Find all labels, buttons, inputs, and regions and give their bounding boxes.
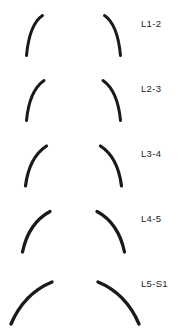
level-label-l5-s1: L5-S1	[141, 279, 168, 289]
arc-group-row-3	[23, 212, 125, 253]
right-arc	[101, 146, 122, 186]
left-arc	[11, 282, 52, 324]
left-arc	[26, 146, 47, 186]
arc-group-row-2	[26, 146, 122, 186]
lumbar-levels-figure: L1-2 L2-3 L3-4 L4-5 L5-S1	[0, 0, 187, 331]
level-label-l4-5: L4-5	[141, 214, 161, 224]
level-label-l2-3: L2-3	[141, 84, 161, 94]
right-arc	[105, 16, 121, 56]
left-arc	[27, 81, 45, 121]
left-arc	[23, 212, 51, 253]
right-arc	[97, 212, 125, 253]
level-label-l1-2: L1-2	[141, 19, 161, 29]
right-arc	[103, 81, 121, 121]
arc-group-row-0	[27, 16, 121, 56]
arc-group-row-1	[27, 81, 121, 121]
level-label-l3-4: L3-4	[141, 149, 161, 159]
left-arc	[27, 16, 43, 56]
arc-group-row-4	[11, 282, 139, 324]
right-arc	[98, 282, 139, 324]
